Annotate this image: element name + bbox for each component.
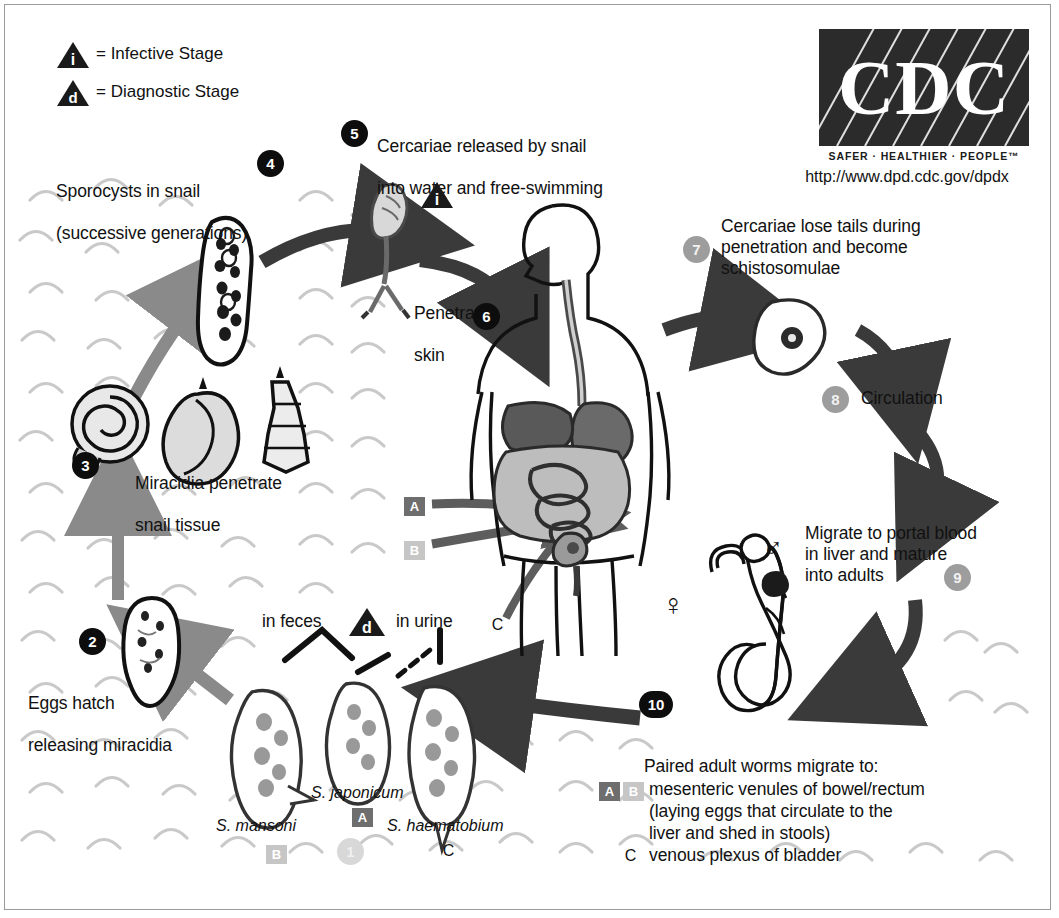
svg-text:i: i [71, 51, 75, 68]
male-symbol: ♂ [763, 533, 783, 564]
infective-stage-icon: i [56, 40, 90, 70]
step-10-number: 10 [639, 691, 673, 718]
step-1-number: 1 [337, 838, 364, 865]
diagram-canvas: i = Infective Stage d = Diagnostic Stage… [0, 0, 1059, 918]
legend-infective-label: = Infective Stage [96, 44, 223, 64]
host-badge-a: A [404, 497, 425, 516]
step-3-label: Miracidia penetrate snail tissue [135, 452, 282, 536]
species-badge-a: A [352, 808, 373, 827]
step-3-line1: Miracidia penetrate [135, 473, 282, 493]
step-8-number: 8 [822, 386, 849, 413]
step-7-number: 7 [683, 236, 710, 263]
host-badge-b: B [404, 541, 425, 560]
worm-site-badge-c: C [620, 846, 641, 865]
step-4-line1: Sporocysts in snail [56, 181, 200, 201]
host-badge-c: C [487, 615, 508, 634]
step-6-number: 6 [473, 303, 500, 330]
step-8-label: Circulation [861, 388, 943, 409]
cdc-tagline: SAFER · HEALTHIER · PEOPLE™ [816, 150, 1032, 162]
worm-site-ab-detail1: (laying eggs that circulate to the [649, 801, 893, 822]
legend-diagnostic-label: = Diagnostic Stage [96, 82, 239, 102]
step-2-line1: Eggs hatch [28, 693, 115, 713]
step-4-number: 4 [257, 150, 284, 177]
step-5-line2: into water and free-swimming [377, 178, 603, 198]
species-label-s-haematobium: S. haematobium [387, 817, 504, 835]
worm-site-badge-a: A [599, 782, 620, 801]
worm-site-badge-b: B [623, 782, 644, 801]
step-7-label: Cercariae lose tails during penetration … [721, 216, 921, 279]
species-label-s-mansoni: S. mansoni [216, 817, 296, 835]
in-feces-label: in feces [262, 611, 322, 632]
diagnostic-stage-icon: d [56, 78, 90, 108]
cdc-wordmark: CDC [819, 29, 1029, 146]
svg-text:d: d [68, 89, 77, 106]
step-5-number: 5 [341, 120, 368, 147]
worm-site-ab-label: mesenteric venules of bowel/rectum [649, 779, 925, 800]
species-badge-c: C [438, 841, 459, 860]
in-urine-label: in urine [396, 611, 453, 632]
cdc-logo: CDC [819, 29, 1029, 146]
step-5-label: Cercariae released by snail into water a… [377, 115, 603, 199]
cdc-url: http://www.dpd.cdc.gov/dpdx [757, 168, 1057, 186]
svg-text:d: d [362, 619, 372, 636]
diagnostic-stage-icon-eggs: d [348, 606, 386, 638]
step-4-line2: (successive generations) [56, 223, 247, 243]
step-3-number: 3 [72, 452, 99, 479]
step-5-line1: Cercariae released by snail [377, 136, 586, 156]
step-9-number: 9 [944, 564, 971, 591]
step-2-label: Eggs hatch releasing miracidia [28, 672, 172, 756]
step-4-label: Sporocysts in snail (successive generati… [56, 160, 247, 244]
infective-stage-icon-cercaria: i [420, 180, 454, 210]
step-3-line2: snail tissue [135, 515, 220, 535]
svg-text:i: i [435, 191, 439, 208]
worm-site-ab-detail2: liver and shed in stools) [649, 823, 830, 844]
species-label-s-japonicum: S. japonicum [311, 784, 404, 802]
adult-worms-heading: Paired adult worms migrate to: [644, 756, 878, 777]
worm-site-c-label: venous plexus of bladder [649, 845, 841, 866]
species-badge-b: B [266, 845, 287, 864]
step-6-line2: skin [414, 345, 445, 365]
step-2-number: 2 [79, 628, 106, 655]
step-2-line2: releasing miracidia [28, 735, 172, 755]
female-symbol: ♀ [662, 588, 685, 622]
